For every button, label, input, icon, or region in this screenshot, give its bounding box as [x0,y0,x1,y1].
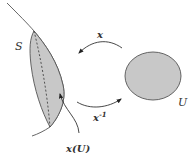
image-label: x(U) [65,143,90,153]
domain-ellipse [125,52,181,100]
surface-label: S [15,40,23,53]
inverse-exponent: -1 [99,110,107,119]
shaded-patch [30,31,64,127]
map-label: x [96,29,104,40]
diagram-canvas: S U x x-1 x(U) [0,0,192,153]
map-arrow [79,42,122,53]
inverse-map-arrow [77,99,121,107]
domain-label: U [178,96,188,109]
inverse-map-label: x-1 [92,110,107,123]
